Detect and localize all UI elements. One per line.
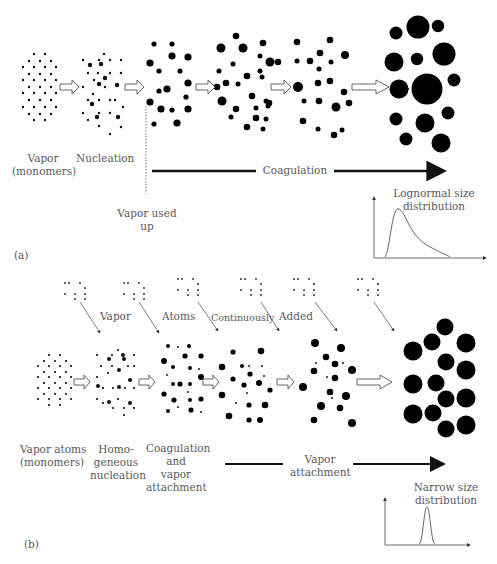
label-up: up: [117, 220, 177, 233]
panel-a-stage4-cluster: [214, 33, 282, 132]
step-arrow: [277, 375, 294, 389]
label-vapor-used: Vapor used: [117, 207, 177, 220]
label-narrow-1: Narrow size: [410, 481, 482, 494]
label-coagulation: Coagulation: [262, 164, 328, 177]
diagram-canvas: [0, 0, 497, 564]
label-coag-3: vapor: [146, 468, 206, 481]
label-coag-2: and: [146, 455, 206, 468]
label-homo-3: nucleation: [90, 469, 142, 482]
label-lognormal-2: distribution: [392, 200, 476, 213]
step-arrow: [74, 375, 90, 389]
label-top-vapor: Vapor: [100, 310, 131, 323]
label-top-continuously: Continuously: [211, 311, 274, 324]
panel-b-stage4-cluster: [219, 348, 273, 423]
label-coag-4: attachment: [146, 481, 206, 494]
label-top-added: Added: [279, 310, 313, 323]
panel-b-final-cluster: [404, 319, 476, 438]
panel-b-nucleation-cluster: [96, 349, 135, 416]
step-arrow: [139, 375, 155, 389]
label-homo-1: Homo-: [90, 443, 142, 456]
label-vapor-atoms: Vapor atoms: [20, 443, 84, 456]
panel-b-vapor-cluster: [37, 354, 72, 406]
panel-a-vapor-cluster: [22, 53, 57, 121]
label-attach-2: attachment: [290, 466, 350, 479]
label-lognormal-1: Lognormal size: [392, 187, 476, 200]
step-arrow: [125, 80, 144, 94]
label-b-monomers: (monomers): [20, 456, 84, 469]
panel-a-final-cluster: [385, 16, 461, 153]
label-homo-2: geneous: [90, 456, 142, 469]
step-arrow: [271, 80, 291, 94]
label-attach-1: Vapor: [290, 453, 350, 466]
panel-a-stage5-cluster: [293, 37, 352, 139]
panel-b-stage5-cluster: [299, 339, 356, 427]
panel-b-added-atom-groups: [64, 278, 379, 300]
label-top-atoms: Atoms: [162, 310, 195, 323]
panel-a-nucleation-cluster: [82, 53, 124, 135]
label-vapor: Vapor: [16, 152, 70, 165]
label-monomers: (monomers): [12, 165, 74, 178]
step-arrow: [196, 80, 215, 94]
panel-b-tag: (b): [24, 538, 39, 551]
label-coag-1: Coagulation: [146, 442, 206, 455]
step-arrow: [203, 375, 219, 389]
step-arrow: [357, 375, 392, 389]
label-narrow-2: distribution: [410, 494, 482, 507]
step-arrow: [352, 80, 389, 94]
panel-b-stage3-cluster: [161, 344, 207, 413]
panel-a-tag: (a): [14, 249, 28, 262]
panel-a-stage3-cluster: [146, 41, 191, 126]
label-nucleation: Nucleation: [76, 152, 130, 165]
step-arrow: [60, 80, 79, 94]
